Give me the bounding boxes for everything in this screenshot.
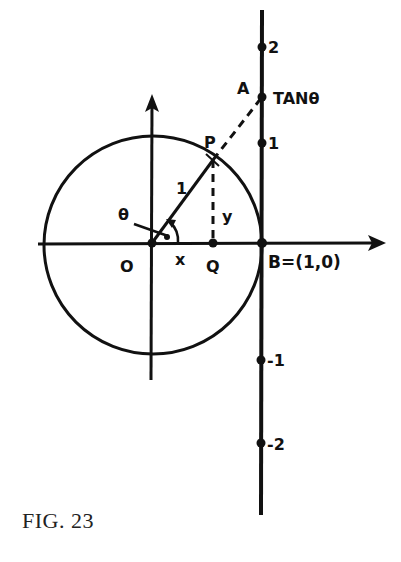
label-o: O <box>120 257 134 276</box>
tick-label-neg2: -2 <box>267 435 285 454</box>
figure-caption: FIG. 23 <box>22 508 94 534</box>
origin-dot <box>148 239 157 248</box>
label-b: B=(1,0) <box>268 252 341 272</box>
tick-neg2-dot <box>257 439 266 448</box>
label-q: Q <box>206 257 220 276</box>
tick-2-dot <box>258 43 267 52</box>
dashed-pa <box>213 97 262 160</box>
tick-label-neg1: -1 <box>267 351 285 370</box>
label-a: A <box>237 79 250 98</box>
label-tan: TANθ <box>273 89 319 108</box>
point-b-dot <box>257 238 267 248</box>
tick-label-1: 1 <box>268 134 279 153</box>
tick-1-dot <box>258 139 267 148</box>
label-y: y <box>222 207 233 226</box>
radius-op <box>152 160 213 243</box>
label-theta: θ <box>118 205 129 224</box>
unit-circle-diagram: O x Q B=(1,0) y 1 θ P A TANθ 2 1 -1 -2 <box>0 0 401 562</box>
label-p: P <box>204 133 216 152</box>
label-radius: 1 <box>176 179 187 198</box>
x-axis <box>38 243 378 244</box>
tick-label-2: 2 <box>268 38 279 57</box>
label-x: x <box>175 250 186 269</box>
point-a-dot <box>258 93 267 102</box>
tick-neg1-dot <box>257 356 266 365</box>
point-q-dot <box>209 239 218 248</box>
theta-dot <box>164 234 170 240</box>
